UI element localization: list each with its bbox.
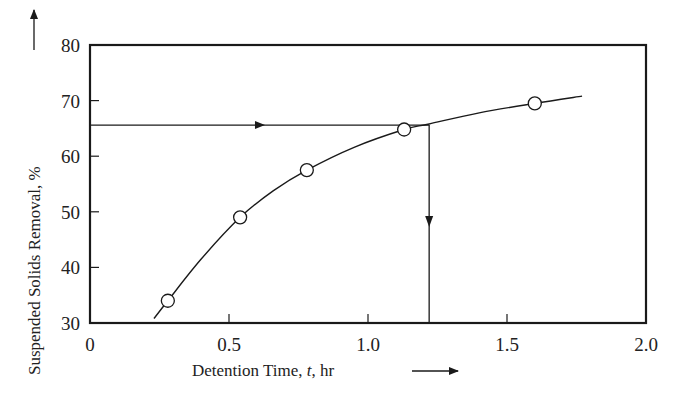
x-tick-label: 1.0 [356,334,380,355]
y-tick-label: 70 [61,91,80,112]
y-tick-label: 50 [61,202,80,223]
data-point-circle-icon [161,294,174,307]
data-point-circle-icon [234,211,247,224]
y-axis-ticks: 304050607080 [61,35,99,334]
x-tick-label: 0.5 [217,334,241,355]
arrowhead-icon [255,121,265,129]
data-point-circle-icon [398,123,411,136]
annotation-arrows [90,121,433,323]
y-tick-label: 30 [61,313,80,334]
plot-border [90,45,646,323]
data-point-circle-icon [300,164,313,177]
y-tick-label: 40 [61,257,80,278]
data-points [161,97,541,307]
y-tick-label: 60 [61,146,80,167]
x-tick-label: 0 [85,334,95,355]
x-axis-ticks: 00.51.01.52.0 [85,314,658,355]
y-axis-title: Suspended Solids Removal, % [25,166,44,375]
fitted-curve [154,96,582,318]
y-tick-label: 80 [61,35,80,56]
x-tick-label: 2.0 [634,334,658,355]
x-tick-label: 1.5 [495,334,519,355]
plot-frame [90,45,646,323]
removal-curve [154,96,582,318]
arrowhead-icon [425,216,433,227]
x-axis-title: Detention Time, t, hr [192,361,335,380]
data-point-circle-icon [528,97,541,110]
chart: 304050607080 00.51.01.52.0 Detention Tim… [0,0,684,400]
